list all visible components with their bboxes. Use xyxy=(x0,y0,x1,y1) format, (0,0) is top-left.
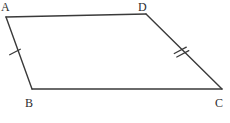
vertex-label-a: A xyxy=(1,1,10,13)
vertex-label-c: C xyxy=(215,97,223,109)
vertex-label-b: B xyxy=(25,97,33,109)
geometry-figure: A D B C xyxy=(0,0,230,123)
vertex-label-d: D xyxy=(138,1,147,13)
quadrilateral-drawing xyxy=(0,0,230,123)
side-BA-line xyxy=(6,17,32,89)
side-AD-line xyxy=(6,14,146,17)
side-DC-line xyxy=(146,14,222,89)
